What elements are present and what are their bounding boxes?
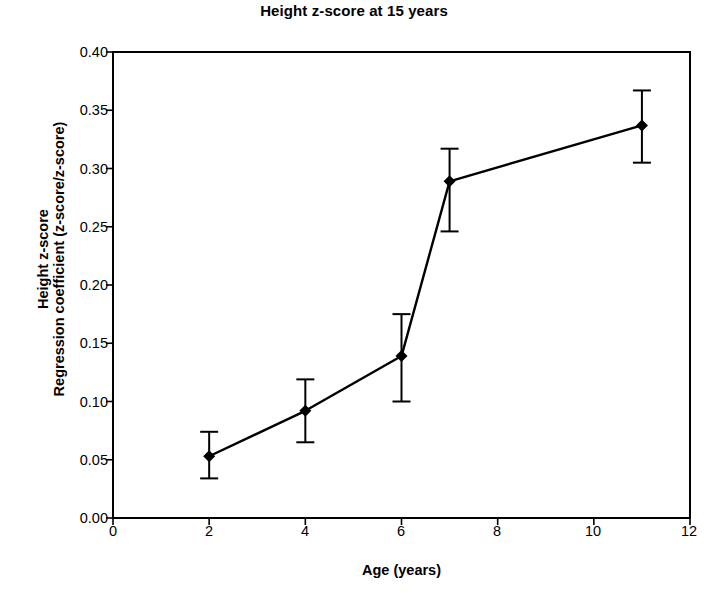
data-point-marker [636, 119, 648, 131]
data-point-marker [396, 350, 408, 362]
chart-figure: Height z-score at 15 years Height z-scor… [0, 0, 708, 598]
data-point-marker [299, 405, 311, 417]
plot-border [113, 52, 690, 518]
error-bars [200, 90, 651, 478]
plot-area [0, 0, 708, 598]
data-points [203, 119, 648, 462]
data-line [209, 125, 642, 456]
data-point-marker [203, 450, 215, 462]
data-point-marker [444, 175, 456, 187]
axis-tick-marks [106, 52, 690, 525]
